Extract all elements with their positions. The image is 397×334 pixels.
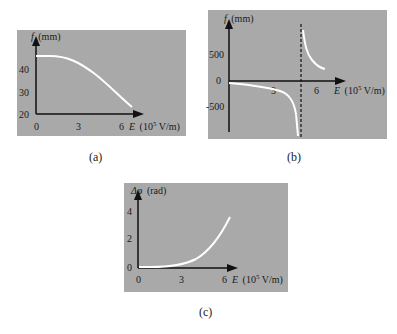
- x-axis-arrow-icon: [335, 77, 346, 85]
- data-curve-left-branch: [229, 83, 298, 136]
- caption-a: (a): [89, 150, 102, 165]
- data-curve: [36, 56, 132, 107]
- ytick: 20: [19, 109, 29, 120]
- x-axis-label: E (105 V/m): [231, 273, 283, 286]
- x-axis-arrow-icon: [133, 110, 144, 118]
- xtick: 6: [119, 121, 124, 132]
- y-axis-label: f (mm): [224, 13, 254, 25]
- ytick: 0: [216, 75, 221, 86]
- chart-b-plot: 500 0 -500 3 6 f (mm) E (105 V/m): [208, 10, 387, 139]
- xtick: 3: [76, 121, 81, 132]
- ytick: 4: [127, 206, 132, 217]
- x-axis-label: E (105 V/m): [333, 84, 385, 97]
- chart-a-plot: 40 30 20 0 3 6 f (mm) E (105 V/m): [17, 30, 186, 136]
- xtick: 6: [222, 274, 227, 285]
- chart-c-plot: 4 2 0 0 3 6 Δφ (rad) E (105 V/m): [124, 183, 288, 292]
- y-axis-label: f (mm): [31, 31, 61, 43]
- ytick: 500: [209, 49, 224, 60]
- ytick: 30: [19, 87, 29, 98]
- ytick: 0: [127, 262, 132, 273]
- xtick: 6: [314, 85, 319, 96]
- caption-b: (b): [287, 150, 301, 165]
- xtick: 3: [179, 274, 184, 285]
- x-axis-arrow-icon: [227, 264, 238, 272]
- x-axis-label: E (105 V/m): [128, 120, 180, 133]
- data-curve: [139, 217, 230, 267]
- chart-b-panel: 500 0 -500 3 6 f (mm) E (105 V/m): [208, 10, 387, 139]
- caption-c: (c): [199, 305, 212, 320]
- data-curve-right-branch: [303, 30, 325, 69]
- chart-c-panel: 4 2 0 0 3 6 Δφ (rad) E (105 V/m): [124, 183, 288, 292]
- ytick: 40: [19, 64, 29, 75]
- xtick: 0: [136, 274, 141, 285]
- ytick: 2: [127, 233, 132, 244]
- chart-a-panel: 40 30 20 0 3 6 f (mm) E (105 V/m): [17, 30, 186, 136]
- ytick: -500: [206, 101, 224, 112]
- y-axis-label: Δφ (rad): [130, 185, 166, 197]
- xtick: 0: [34, 121, 39, 132]
